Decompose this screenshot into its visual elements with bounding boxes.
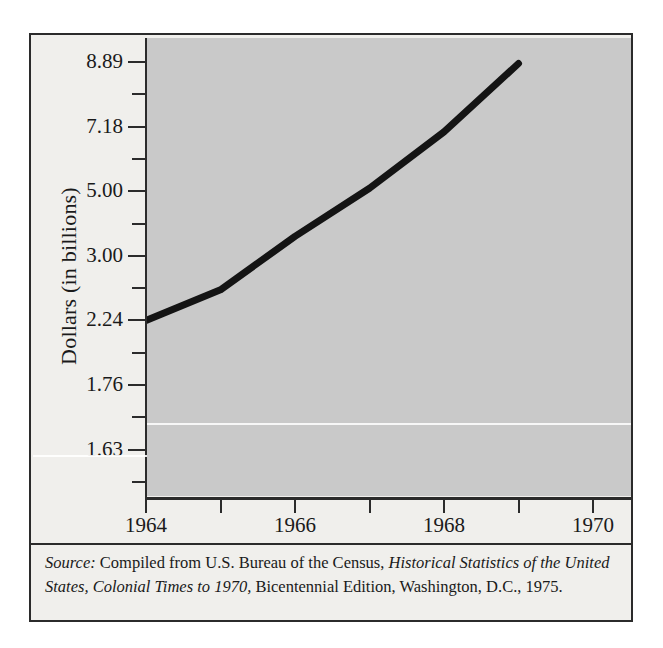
x-tick-label: 1970 (572, 515, 614, 536)
x-tick (369, 500, 371, 513)
source-label: Source: (45, 553, 96, 572)
figure-frame: Dollars (in billions) 8.897.185.003.002.… (29, 33, 633, 622)
source-divider (31, 543, 631, 545)
y-tick-major (128, 319, 145, 321)
x-tick-label: 1964 (125, 515, 167, 536)
x-tick-label: 1968 (423, 515, 465, 536)
x-tick (220, 500, 222, 513)
y-tick-minor (132, 416, 145, 418)
y-tick-minor (132, 481, 145, 483)
chart-region: Dollars (in billions) 8.897.185.003.002.… (31, 35, 631, 509)
y-tick-label: 8.89 (86, 51, 123, 72)
x-tick (145, 500, 147, 513)
scan-fold-line-left (33, 455, 147, 457)
data-series-line (147, 64, 519, 321)
y-tick-major (128, 126, 145, 128)
x-tick (592, 500, 594, 513)
y-tick-label: 2.24 (86, 309, 123, 330)
y-tick-label: 5.00 (86, 180, 123, 201)
y-tick-minor (132, 93, 145, 95)
x-tick (294, 500, 296, 513)
y-tick-major (128, 255, 145, 257)
y-tick-major (128, 61, 145, 63)
source-text-1: Compiled from U.S. Bureau of the Census, (96, 553, 389, 572)
data-line-chart (147, 38, 631, 496)
source-text-2: Bicentennial Edition, Washington, D.C., … (251, 577, 562, 596)
y-tick-major (128, 449, 145, 451)
y-tick-label: 7.18 (86, 116, 123, 137)
y-tick-minor (132, 223, 145, 225)
y-tick-minor (132, 352, 145, 354)
y-tick-label: 3.00 (86, 245, 123, 266)
x-tick-label: 1966 (274, 515, 316, 536)
y-axis-ticks: 8.897.185.003.002.241.761.63 (31, 35, 145, 509)
y-tick-major (128, 190, 145, 192)
x-axis-ticks (31, 500, 635, 514)
x-tick (518, 500, 520, 513)
plot-area (147, 38, 631, 496)
y-tick-minor (132, 158, 145, 160)
x-tick (443, 500, 445, 513)
y-tick-label: 1.76 (86, 374, 123, 395)
y-tick-major (128, 384, 145, 386)
y-tick-minor (132, 287, 145, 289)
source-note: Source: Compiled from U.S. Bureau of the… (45, 551, 617, 599)
